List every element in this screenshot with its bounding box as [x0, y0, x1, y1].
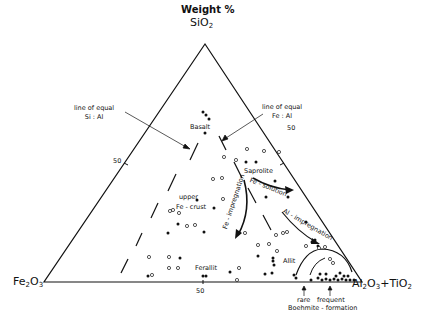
tick-label-left-50: 50 [113, 158, 121, 165]
label-basalt: Basalt [190, 124, 210, 131]
vertex-label-fe2o3: Fe2O3 [13, 276, 43, 289]
label-line-equal-si-al: line of equalSi : Al [74, 105, 114, 120]
tick-left-50 [124, 163, 128, 165]
label-saprolite: Saprolite [244, 168, 273, 175]
diagram-title: Weight % [181, 5, 234, 15]
label-upper: upper [179, 194, 198, 201]
filled-points [147, 111, 356, 282]
boehmite-inner-curve [310, 258, 325, 275]
label-rare: rare [297, 297, 310, 304]
vertex-label-sio2: SiO2 [190, 17, 213, 30]
label-boehmite-formation: Boehmite - formation [288, 305, 357, 312]
label-ferallit: Ferallit [195, 265, 217, 272]
label-frequent: frequent [317, 297, 345, 304]
label-allit: Allit [283, 258, 295, 265]
tick-label-bottom-50: 50 [196, 288, 204, 295]
vertex-label-al2o3-tio2: Al2O3+TiO2 [352, 278, 412, 291]
ternary-triangle [44, 44, 362, 282]
open-points [147, 147, 334, 281]
boehmite-up-arrows [302, 286, 332, 296]
tick-label-right-50: 50 [287, 125, 295, 132]
label-fe-crust: Fe - crust [176, 204, 206, 211]
tick-right-50 [280, 163, 284, 165]
boehmite-curve [296, 249, 352, 275]
label-line-equal-fe-al: line of equalFe : Al [262, 104, 302, 119]
